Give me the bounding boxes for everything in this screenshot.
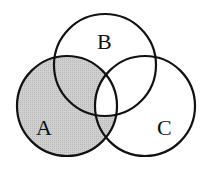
label-b: B xyxy=(97,29,112,54)
venn-diagram: A B C xyxy=(0,0,200,170)
label-c: C xyxy=(157,115,172,140)
label-a: A xyxy=(36,115,52,140)
